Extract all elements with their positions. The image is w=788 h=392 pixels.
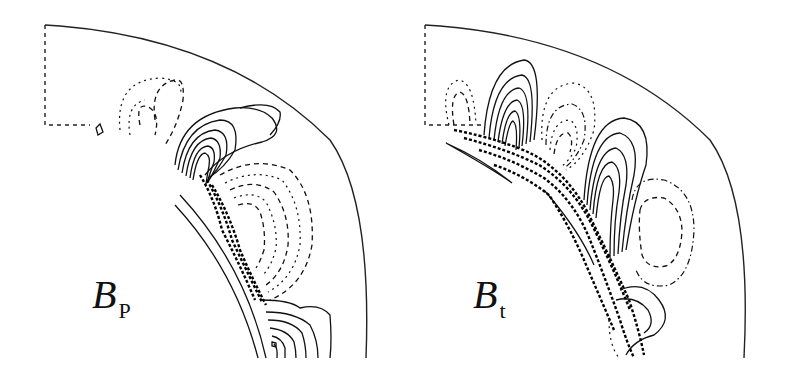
panel-label-bt: Bt: [473, 275, 504, 315]
toroidal-contour-plot: [394, 0, 788, 392]
panel-toroidal-field: Bt: [394, 0, 788, 392]
label-main-symbol: B: [473, 272, 497, 317]
negative-contour-group-2: [632, 179, 694, 286]
label-subscript: t: [499, 298, 505, 323]
label-main-symbol: B: [92, 272, 116, 317]
polar-dashed-box: [45, 25, 90, 125]
poloidal-contour-plot: [0, 0, 394, 392]
tail-contour: [609, 320, 619, 358]
negative-contour: [129, 100, 145, 135]
panel-label-bp: BP: [92, 275, 129, 315]
negative-contour: [446, 80, 476, 125]
inner-wedge-contour: [446, 143, 512, 183]
positive-contour-group-bottom: [262, 300, 331, 358]
negative-contour: [452, 92, 470, 125]
small-loop: [96, 124, 103, 135]
dense-contour-band: [479, 150, 634, 358]
dense-contour-band: [212, 185, 266, 305]
negative-contour-group-1: [542, 83, 595, 170]
positive-contour-group-2: [584, 118, 647, 258]
polar-dashed-box: [425, 25, 484, 125]
positive-contour-group: [175, 105, 280, 184]
panel-poloidal-field: BP: [0, 0, 394, 392]
positive-contour-group-1: [484, 60, 537, 150]
dense-contour-band: [200, 175, 255, 300]
negative-contour: [154, 80, 183, 145]
label-subscript: P: [118, 298, 130, 323]
